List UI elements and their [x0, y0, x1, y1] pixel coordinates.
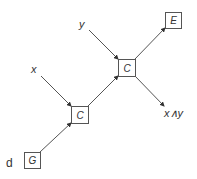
node-g-label: G	[29, 155, 37, 166]
node-c1-label: C	[76, 110, 84, 121]
edge-y-to-c2	[89, 30, 118, 59]
edge-c1-to-c2	[88, 76, 118, 106]
edge-x-to-c1	[41, 76, 71, 106]
node-c2-label: C	[123, 63, 131, 74]
input-y-label: y	[78, 18, 86, 30]
node-g: G	[25, 153, 41, 169]
edge-c2-to-xy	[135, 76, 164, 106]
node-c1: C	[72, 107, 89, 124]
node-e: E	[166, 13, 182, 29]
edge-g-to-c1	[40, 123, 71, 152]
node-c2: C	[119, 60, 136, 77]
input-x-label: x	[30, 63, 37, 75]
diagram-canvas: G C C E x y x∧y d	[0, 0, 197, 179]
output-xy-label: x∧y	[163, 107, 185, 119]
edge-c2-to-e	[135, 28, 165, 59]
node-e-label: E	[170, 15, 177, 26]
panel-label: d	[6, 156, 13, 170]
